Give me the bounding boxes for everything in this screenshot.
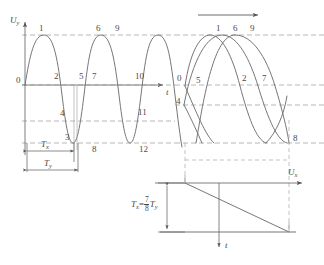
left-plot-t-axis-label: t — [166, 88, 169, 97]
trace-arc-1 — [185, 35, 266, 143]
point-label-7: 7 — [92, 72, 97, 81]
point-label-2: 2 — [54, 72, 59, 81]
point-label-1: 1 — [39, 24, 44, 33]
sweep-plot-group — [158, 175, 296, 247]
tx-bracket-label: Tx — [41, 140, 49, 150]
projection-lines — [185, 120, 289, 232]
right-point-label-9: 9 — [250, 24, 255, 33]
point-label-8: 8 — [92, 145, 97, 154]
right-plot-gridlines — [175, 35, 324, 143]
sawtooth-ramp — [185, 183, 289, 232]
figure-canvas: Uy t 0 1 2 3 4 5 6 7 8 9 10 11 12 Tx Ty … — [0, 0, 324, 265]
screen-trace-arcs — [184, 35, 289, 143]
left-plot-gridlines — [22, 35, 175, 143]
right-point-label-4: 4 — [176, 97, 181, 106]
trace-arc-2 — [184, 35, 287, 143]
point-label-5: 5 — [79, 72, 84, 81]
ty-bracket-graphic — [27, 143, 78, 172]
point-label-10: 10 — [135, 72, 144, 81]
ux-axis-label: Ux — [288, 168, 297, 178]
point-label-11: 11 — [138, 108, 147, 117]
uy-waveform-curve — [25, 35, 182, 147]
point-label-0: 0 — [16, 76, 21, 85]
right-point-label-8: 8 — [293, 134, 298, 143]
ty-bracket-label: Ty — [44, 159, 52, 169]
sweep-t-label: t — [225, 241, 228, 250]
point-label-4: 4 — [60, 109, 65, 118]
right-point-label-5: 5 — [196, 76, 201, 85]
trace-arc-3 — [196, 35, 289, 143]
right-point-label-6: 6 — [233, 24, 238, 33]
sweep-ty-bracket — [158, 183, 185, 232]
point-label-9: 9 — [115, 24, 120, 33]
point-label-3: 3 — [65, 133, 70, 142]
right-point-label-2: 2 — [242, 74, 247, 83]
right-plot-group — [155, 15, 324, 232]
right-point-label-7: 7 — [262, 74, 267, 83]
ratio-fraction: 78 — [144, 196, 149, 212]
right-point-label-1: 1 — [216, 24, 221, 33]
point-label-6: 6 — [96, 24, 101, 33]
point-label-12: 12 — [139, 145, 148, 154]
right-point-label-0: 0 — [177, 74, 182, 83]
uy-axis-label: Uy — [10, 16, 19, 26]
sweep-period-relation: Tx=78Ty — [131, 196, 158, 212]
diagram-svg — [0, 0, 324, 265]
